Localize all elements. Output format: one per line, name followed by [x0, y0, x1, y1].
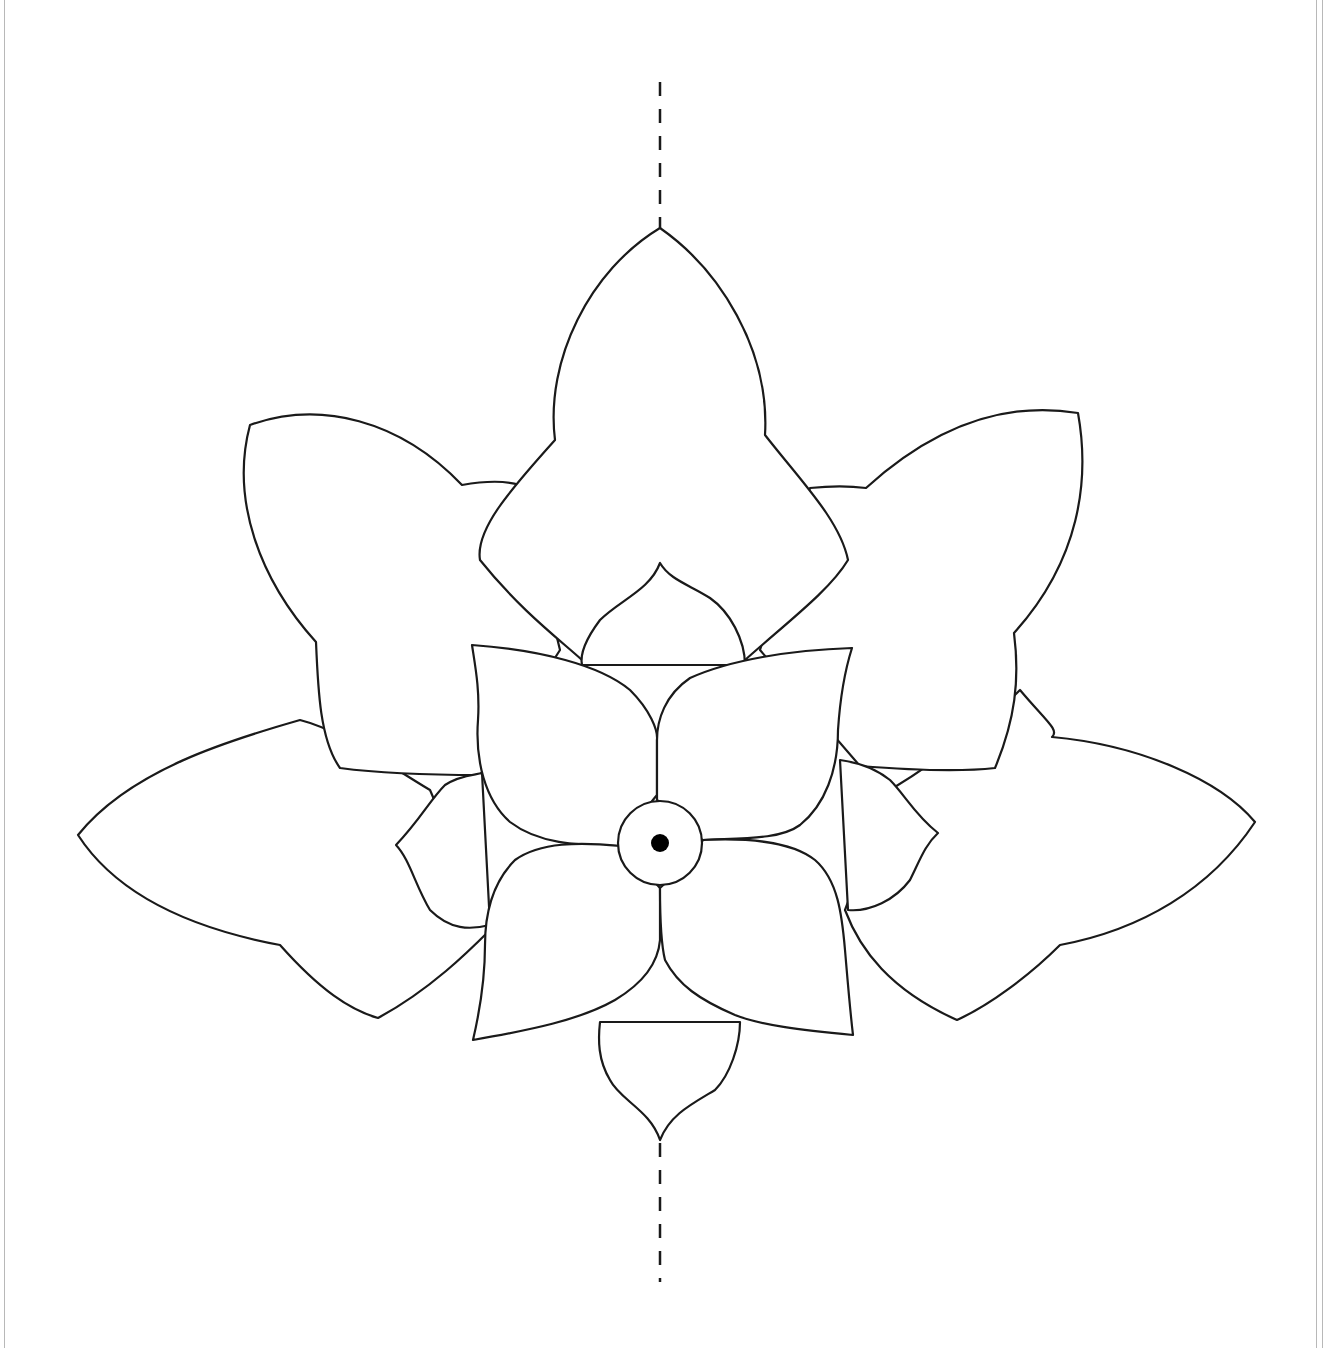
middle-petal-bottom	[599, 1022, 740, 1140]
center-dot	[651, 834, 669, 852]
flower-pattern	[0, 0, 1329, 1348]
template-page	[0, 0, 1329, 1348]
